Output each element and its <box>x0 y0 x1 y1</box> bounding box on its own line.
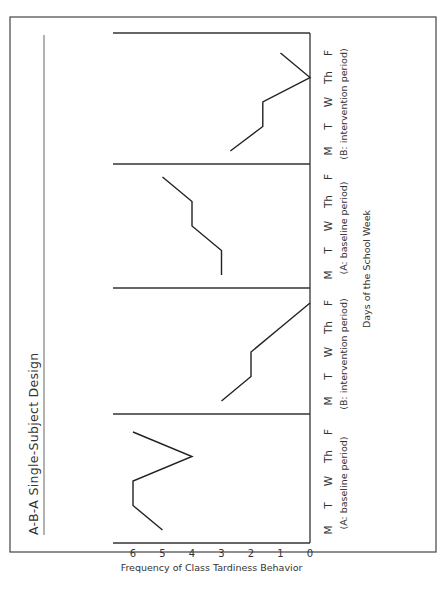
phase-label: (B: intervention period) <box>338 298 349 409</box>
figure-frame <box>10 17 436 552</box>
plot-series <box>133 53 310 530</box>
y-tick-label: 6 <box>130 548 136 559</box>
day-label: F <box>322 50 334 56</box>
day-label: Th <box>322 195 334 209</box>
phase-label: (A: baseline period) <box>338 436 349 529</box>
phase-label: (A: baseline period) <box>338 181 349 274</box>
day-label: T <box>322 502 334 510</box>
day-label: Th <box>322 321 334 335</box>
day-label: Th <box>322 71 334 85</box>
chart-figure: A-B-A Single-Subject Design 0123456MTWTh… <box>0 0 445 605</box>
day-label: T <box>322 373 334 381</box>
phase-line-4 <box>230 53 310 151</box>
day-label: W <box>322 96 334 107</box>
plot-axes <box>113 33 310 543</box>
y-tick-label: 4 <box>189 548 195 559</box>
phase-line-1 <box>133 432 192 530</box>
y-tick-label: 3 <box>218 548 224 559</box>
day-label: F <box>322 174 334 180</box>
day-label: M <box>322 270 334 279</box>
day-label: M <box>322 525 334 534</box>
day-label: T <box>322 247 334 255</box>
day-label: M <box>322 146 334 155</box>
chart-title: A-B-A Single-Subject Design <box>26 352 41 535</box>
title-text: A-B-A Single-Subject Design <box>26 352 41 535</box>
day-label: W <box>322 220 334 231</box>
day-label: Th <box>322 450 334 464</box>
day-label: F <box>322 300 334 306</box>
y-axis-label: Frequency of Class Tardiness Behavior <box>121 562 303 573</box>
day-label: M <box>322 396 334 405</box>
phase-label: (B: intervention period) <box>338 48 349 159</box>
x-axis-label: Days of the School Week <box>361 209 372 328</box>
y-tick-label: 1 <box>277 548 283 559</box>
rotated-plot-group: A-B-A Single-Subject Design 0123456MTWTh… <box>26 33 372 573</box>
y-tick-label: 0 <box>307 548 313 559</box>
plot-labels: 0123456MTWThF(A: baseline period)MTWThF(… <box>130 48 349 559</box>
y-tick-label: 5 <box>159 548 165 559</box>
day-label: W <box>322 475 334 486</box>
day-label: F <box>322 429 334 435</box>
day-label: T <box>322 123 334 131</box>
phase-line-3 <box>163 177 222 275</box>
aba-chart: A-B-A Single-Subject Design 0123456MTWTh… <box>0 0 445 605</box>
day-label: W <box>322 346 334 357</box>
y-tick-label: 2 <box>248 548 254 559</box>
phase-line-2 <box>222 303 311 401</box>
